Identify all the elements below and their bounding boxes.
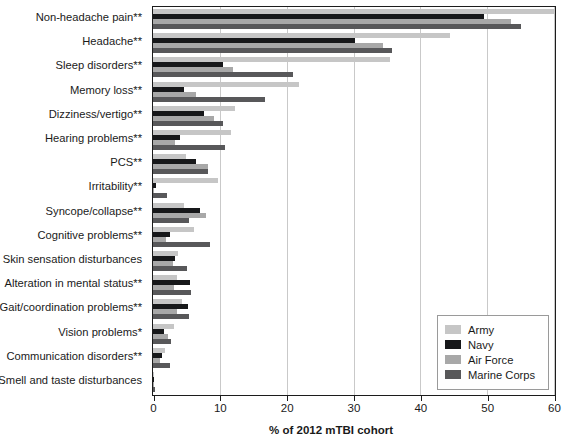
x-tick-label: 60: [548, 402, 561, 414]
bar-marine-corps: [153, 314, 189, 319]
x-tick-label: 20: [281, 402, 294, 414]
bar-marine-corps: [153, 266, 187, 271]
y-axis-label: Dizziness/vertigo**: [49, 108, 142, 120]
bar-group: [153, 31, 555, 55]
legend-item-air-force[interactable]: Air Force: [445, 352, 541, 367]
legend-swatch-icon: [445, 370, 461, 379]
x-tick-label: 50: [481, 402, 494, 414]
bar-chart-figure: Non-headache pain**Headache**Sleep disor…: [0, 0, 562, 442]
y-axis-label: PCS**: [110, 156, 142, 168]
y-axis-label: Irritability**: [89, 180, 142, 192]
legend-swatch-icon: [445, 325, 461, 334]
x-tick-mark: [287, 396, 288, 401]
bar-group: [153, 7, 555, 31]
bar-army: [153, 178, 218, 183]
x-tick-mark: [154, 396, 155, 401]
bar-marine-corps: [153, 48, 392, 53]
bar-group: [153, 55, 555, 79]
x-tick-mark: [421, 396, 422, 401]
legend-label: Air Force: [468, 354, 513, 366]
y-axis-category-labels: Non-headache pain**Headache**Sleep disor…: [0, 6, 148, 396]
x-axis-title: % of 2012 mTBI cohort: [0, 424, 562, 436]
x-tick-label: 30: [348, 402, 361, 414]
y-axis-label: Headache**: [82, 35, 142, 47]
y-axis-label: Memory loss**: [70, 84, 142, 96]
bar-marine-corps: [153, 169, 208, 174]
bar-marine-corps: [153, 121, 223, 126]
bar-marine-corps: [153, 290, 191, 295]
x-axis-title-text: % of 2012 mTBI cohort: [269, 424, 393, 436]
y-axis-label: Vision problems*: [58, 326, 142, 338]
bar-marine-corps: [153, 193, 167, 198]
y-axis-label: Syncope/collapse**: [46, 205, 142, 217]
bar-group: [153, 80, 555, 104]
bar-marine-corps: [153, 339, 171, 344]
bar-group: [153, 225, 555, 249]
y-axis-label: Sleep disorders**: [56, 59, 142, 71]
bar-marine-corps: [153, 387, 155, 392]
legend-swatch-icon: [445, 355, 461, 364]
y-axis-label: Non-headache pain**: [36, 11, 142, 23]
bar-marine-corps: [153, 218, 189, 223]
x-tick-mark: [488, 396, 489, 401]
bar-group: [153, 152, 555, 176]
y-axis-label: Alteration in mental status**: [5, 277, 142, 289]
x-tick-label: 10: [214, 402, 227, 414]
bar-group: [153, 104, 555, 128]
bar-group: [153, 273, 555, 297]
bar-group: [153, 128, 555, 152]
legend-label: Army: [468, 324, 494, 336]
bar-marine-corps: [153, 97, 265, 102]
legend-item-army[interactable]: Army: [445, 322, 541, 337]
x-tick-label: 40: [414, 402, 427, 414]
y-axis-label: Communication disorders**: [6, 350, 142, 362]
x-tick-mark: [354, 396, 355, 401]
bar-marine-corps: [153, 145, 225, 150]
y-axis-label: Cognitive problems**: [38, 229, 142, 241]
x-tick-label: 0: [150, 402, 156, 414]
bar-group: [153, 201, 555, 225]
bar-marine-corps: [153, 72, 293, 77]
bar-marine-corps: [153, 242, 210, 247]
legend-item-navy[interactable]: Navy: [445, 337, 541, 352]
x-tick-mark: [555, 396, 556, 401]
y-axis-label: Smell and taste disturbances: [0, 374, 142, 386]
bar-marine-corps: [153, 24, 521, 29]
bar-group: [153, 249, 555, 273]
legend-label: Marine Corps: [468, 369, 535, 381]
chart-legend: ArmyNavyAir ForceMarine Corps: [437, 315, 549, 390]
legend-item-marine-corps[interactable]: Marine Corps: [445, 367, 541, 382]
bar-marine-corps: [153, 363, 170, 368]
y-axis-label: Hearing problems**: [45, 132, 142, 144]
y-axis-label: Gait/coordination problems**: [0, 301, 142, 313]
x-axis-ticks: 0102030405060: [0, 396, 562, 416]
x-tick-mark: [220, 396, 221, 401]
y-axis-label: Skin sensation disturbances: [3, 253, 142, 265]
bar-group: [153, 176, 555, 200]
legend-label: Navy: [468, 339, 494, 351]
legend-swatch-icon: [445, 340, 461, 349]
